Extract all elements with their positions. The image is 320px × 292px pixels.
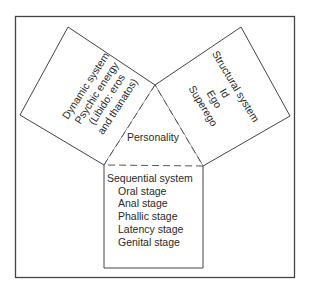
sequential-system-title: Sequential system [104, 172, 203, 185]
sequential-system-item: Latency stage [104, 223, 203, 236]
sequential-system-item: Phallic stage [104, 210, 203, 223]
sequential-system-item: Oral stage [104, 185, 203, 198]
sequential-system-text: Sequential system Oral stage Anal stage … [104, 172, 203, 248]
sequential-system-item: Genital stage [104, 236, 203, 249]
personality-label: Personality [127, 131, 179, 144]
sequential-system-item: Anal stage [104, 197, 203, 210]
